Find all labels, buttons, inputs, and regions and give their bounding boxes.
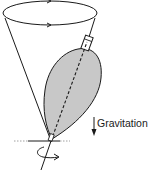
axis-extension <box>41 141 51 170</box>
top-stem <box>81 35 93 51</box>
gravitation-label: Gravitation <box>97 117 148 129</box>
precession-circle <box>3 0 97 27</box>
spinning-top-body <box>44 49 101 139</box>
gravitation-arrow-icon <box>92 117 97 136</box>
spinning-top-diagram <box>0 0 153 173</box>
